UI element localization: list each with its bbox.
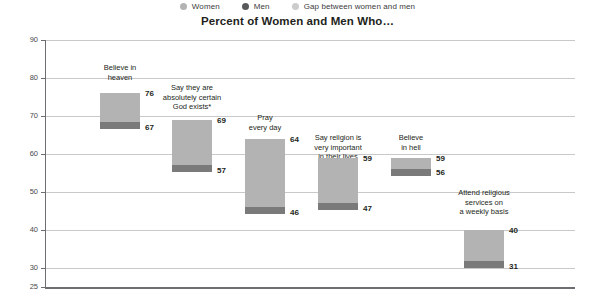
value-label-women: 40 [509,226,518,235]
bar-gap-segment [245,139,285,207]
value-label-men: 56 [436,168,445,177]
y-tick-label-70-wrap: 70 [8,111,38,121]
category-label: Believe in hell [365,133,457,152]
y-tick-label-80-wrap: 80 [8,73,38,83]
y-tick-70 [41,116,46,117]
y-tick-30 [41,268,46,269]
y-tick-label-60: 60 [14,149,38,158]
y-tick-label-30-wrap: 30 [8,263,38,273]
value-label-men: 67 [145,123,154,132]
y-tick-40 [41,230,46,231]
chart-container: Women Men Gap between women and men Perc… [0,0,595,306]
gridline-30 [46,268,575,269]
bar-gap-segment [100,93,140,122]
value-label-men: 57 [217,166,226,175]
value-label-men: 46 [290,208,299,217]
y-tick-label-30: 30 [14,263,38,272]
bar-men-segment [172,165,212,172]
y-tick-label-50: 50 [14,187,38,196]
y-tick-25 [41,287,46,288]
y-tick-label-25-wrap: 25 [8,282,38,292]
y-tick-label-40-wrap: 40 [8,225,38,235]
category-label: Attend religious services on a weekly ba… [438,188,530,217]
category-label: Say they are absolutely certain God exis… [146,83,238,112]
x-axis-baseline [45,287,575,289]
y-tick-50 [41,192,46,193]
category-label: Believe in heaven [74,63,166,82]
y-tick-label-60-wrap: 60 [8,149,38,159]
bar-gap-segment [318,158,358,203]
value-label-men: 47 [363,204,372,213]
y-tick-label-80: 80 [14,73,38,82]
y-tick-label-90-wrap: 90 [8,35,38,45]
y-tick-60 [41,154,46,155]
bar-gap-segment [172,120,212,165]
y-tick-label-50-wrap: 50 [8,187,38,197]
y-tick-80 [41,78,46,79]
bar-men-segment [245,207,285,214]
y-tick-90 [41,40,46,41]
gridline-90 [46,40,575,41]
bar-men-segment [100,122,140,129]
value-label-men: 31 [509,262,518,271]
bar-gap-segment [464,230,504,261]
y-tick-label-25: 25 [14,282,38,291]
plot-area: 90 80 70 60 50 40 30 25 [0,0,595,306]
bar-men-segment [391,169,431,176]
y-tick-label-90: 90 [14,35,38,44]
y-tick-label-70: 70 [14,111,38,120]
bar-gap-segment [391,158,431,169]
value-label-women: 59 [436,154,445,163]
category-label: Pray every day [219,113,311,132]
bar-men-segment [464,261,504,268]
value-label-women: 59 [363,154,372,163]
bar-men-segment [318,203,358,210]
y-tick-label-40: 40 [14,225,38,234]
